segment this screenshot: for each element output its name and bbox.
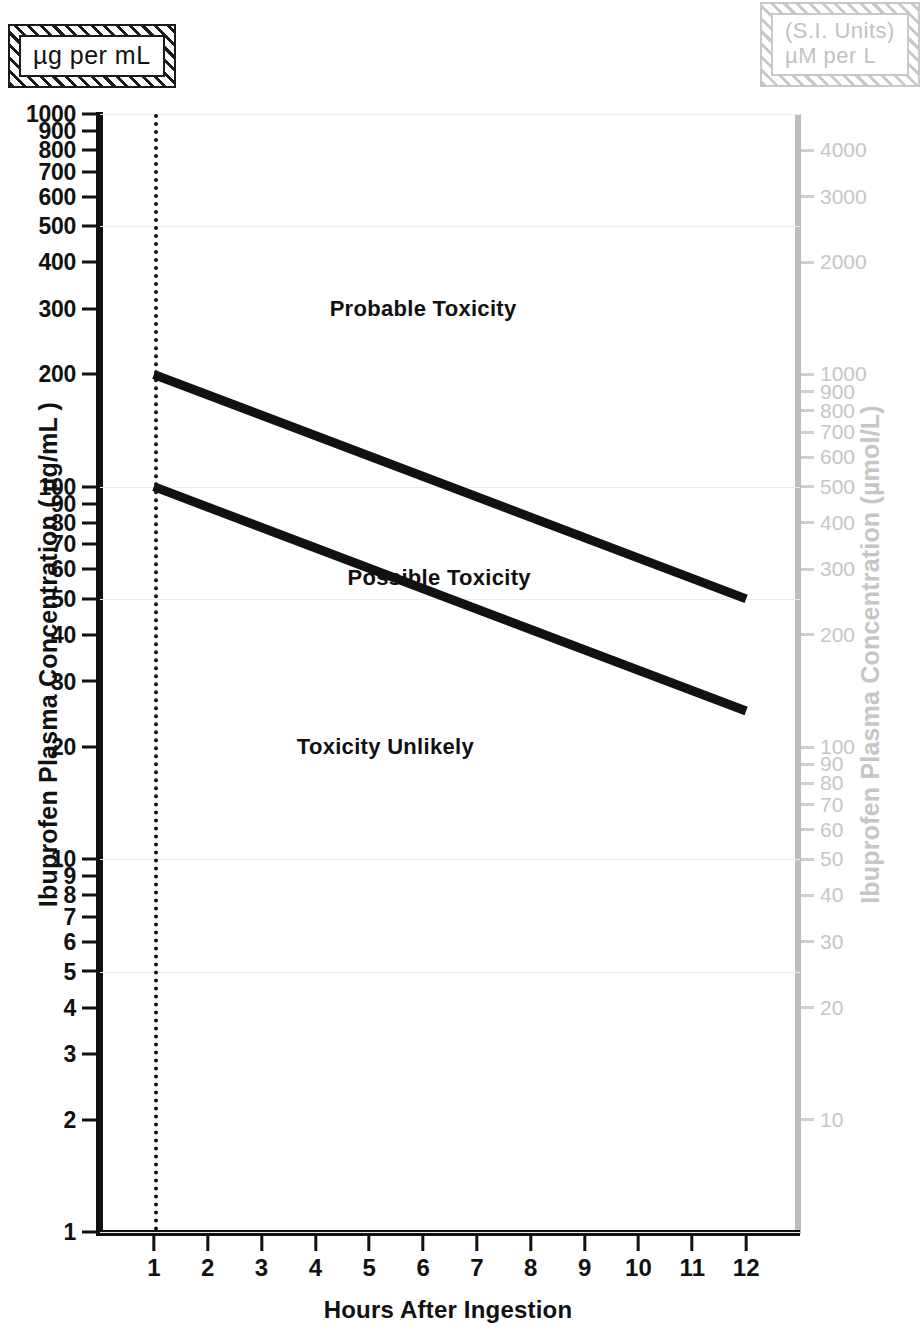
x-tick: 1 xyxy=(147,1236,160,1282)
y-axis-title-left: Ibuprofen Plasma Concentration ( µg/mL ) xyxy=(34,305,63,1005)
x-tick-label: 9 xyxy=(578,1254,591,1282)
units-box-left-inner: µg per mL xyxy=(19,35,165,77)
units-box-right: (S.I. Units) µM per L xyxy=(760,2,920,87)
x-tick-mark xyxy=(260,1236,263,1251)
x-tick-mark xyxy=(475,1236,478,1251)
y-tick-right: 2000 xyxy=(801,250,867,274)
y-tick-right: 500 xyxy=(801,475,855,499)
units-right-label-line2: µM per L xyxy=(785,44,895,69)
y-tick-right: 4000 xyxy=(801,138,867,162)
x-tick-mark xyxy=(583,1236,586,1251)
y-tick-right: 30 xyxy=(801,930,843,954)
y-tick-left: 400 xyxy=(39,249,96,276)
y-tick-left: 2 xyxy=(64,1106,97,1133)
x-tick-label: 5 xyxy=(363,1254,376,1282)
y-tick-right: 600 xyxy=(801,445,855,469)
y-tick-left: 3 xyxy=(64,1041,97,1068)
x-tick: 10 xyxy=(625,1236,652,1282)
x-tick: 2 xyxy=(201,1236,214,1282)
x-tick-mark xyxy=(529,1236,532,1251)
toxicity-boundary-line-2 xyxy=(154,487,746,711)
y-tick-right: 700 xyxy=(801,420,855,444)
y-tick-right: 300 xyxy=(801,557,855,581)
x-tick-mark xyxy=(422,1236,425,1251)
x-tick-label: 11 xyxy=(680,1254,705,1282)
x-tick-label: 8 xyxy=(524,1254,537,1282)
y-tick-right: 40 xyxy=(801,883,843,907)
y-tick-right: 100 xyxy=(801,735,855,759)
x-tick-label: 4 xyxy=(309,1254,322,1282)
y-tick-left: 1000 xyxy=(26,101,96,128)
y-tick-left: 1 xyxy=(64,1219,97,1246)
x-tick-mark xyxy=(152,1236,155,1251)
x-tick: 12 xyxy=(733,1236,760,1282)
x-tick: 11 xyxy=(680,1236,705,1282)
y-tick-left: 5 xyxy=(64,958,97,985)
x-tick-mark xyxy=(637,1236,640,1251)
region-label-3: Toxicity Unlikely xyxy=(297,734,474,760)
y-tick-left: 500 xyxy=(39,213,96,240)
y-axis-title-right: Ibuprofen Plasma Concentration (µmol/L) xyxy=(856,305,885,1005)
x-tick-label: 6 xyxy=(416,1254,429,1282)
x-tick-label: 2 xyxy=(201,1254,214,1282)
y-tick-left: 600 xyxy=(39,183,96,210)
region-label-2: Possible Toxicity xyxy=(348,565,531,591)
y-tick-right: 20 xyxy=(801,996,843,1020)
x-axis-ticks: 123456789101112 xyxy=(100,1236,800,1296)
x-tick-mark xyxy=(691,1236,694,1251)
y-tick-right: 70 xyxy=(801,793,843,817)
x-tick-label: 12 xyxy=(733,1254,760,1282)
x-tick-label: 3 xyxy=(255,1254,268,1282)
x-axis-title: Hours After Ingestion xyxy=(0,1296,896,1324)
units-left-label: µg per mL xyxy=(33,41,151,69)
x-tick-mark xyxy=(368,1236,371,1251)
region-label-1: Probable Toxicity xyxy=(330,296,517,322)
x-tick-mark xyxy=(206,1236,209,1251)
x-tick: 3 xyxy=(255,1236,268,1282)
x-tick: 8 xyxy=(524,1236,537,1282)
units-box-left: µg per mL xyxy=(8,24,176,88)
x-tick: 7 xyxy=(470,1236,483,1282)
x-tick-mark xyxy=(314,1236,317,1251)
x-tick-mark xyxy=(745,1236,748,1251)
x-tick-label: 7 xyxy=(470,1254,483,1282)
x-tick: 5 xyxy=(363,1236,376,1282)
x-tick: 6 xyxy=(416,1236,429,1282)
y-tick-left: 6 xyxy=(64,929,97,956)
units-right-label-line1: (S.I. Units) xyxy=(785,19,895,44)
y-tick-right: 400 xyxy=(801,511,855,535)
x-tick: 9 xyxy=(578,1236,591,1282)
x-tick-label: 10 xyxy=(625,1254,652,1282)
y-tick-left: 4 xyxy=(64,994,97,1021)
y-tick-right: 3000 xyxy=(801,185,867,209)
y-tick-right: 10 xyxy=(801,1108,843,1132)
x-tick-label: 1 xyxy=(147,1254,160,1282)
units-box-right-inner: (S.I. Units) µM per L xyxy=(771,13,909,76)
x-tick: 4 xyxy=(309,1236,322,1282)
gridline xyxy=(100,1232,800,1233)
y-tick-right: 200 xyxy=(801,623,855,647)
toxicity-boundary-lines xyxy=(100,114,800,1232)
y-tick-right: 60 xyxy=(801,818,843,842)
plot-area: Probable ToxicityPossible ToxicityToxici… xyxy=(100,114,800,1232)
y-tick-right: 50 xyxy=(801,847,843,871)
